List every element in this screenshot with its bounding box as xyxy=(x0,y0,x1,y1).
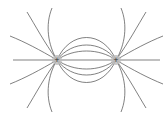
charge-sign-right: + xyxy=(113,56,119,64)
charge-right: + xyxy=(111,55,121,65)
field-diagram: + + xyxy=(0,0,167,118)
field-lines xyxy=(10,8,163,112)
charge-left: + xyxy=(52,55,62,65)
charge-sign-left: + xyxy=(54,56,60,64)
